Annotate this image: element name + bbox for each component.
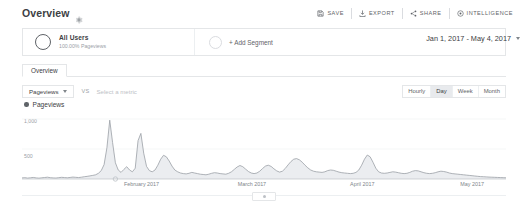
segment-text: All Users 100.00% Pageviews bbox=[59, 34, 106, 49]
chart-drag-handle[interactable] bbox=[252, 192, 276, 201]
analytics-overview-page: Overview SAVE bbox=[0, 0, 528, 210]
x-axis-labels: February 2017 March 2017 April 2017 May … bbox=[22, 181, 506, 191]
add-segment-label: + Add Segment bbox=[229, 39, 273, 46]
chevron-down-icon bbox=[516, 37, 520, 40]
share-button[interactable]: SHARE bbox=[403, 6, 449, 20]
drag-handle-icon bbox=[263, 195, 266, 198]
x-axis-tick-feb: February 2017 bbox=[124, 181, 159, 187]
primary-metric-select[interactable]: Pageviews bbox=[22, 85, 74, 98]
intelligence-icon bbox=[457, 10, 464, 17]
vs-label: VS bbox=[81, 88, 89, 94]
share-label: SHARE bbox=[420, 10, 442, 16]
chevron-down-icon bbox=[63, 90, 67, 93]
save-icon bbox=[317, 10, 324, 17]
save-button[interactable]: SAVE bbox=[310, 6, 351, 20]
date-range-selector[interactable]: Jan 1, 2017 - May 4, 2017 bbox=[426, 34, 520, 43]
date-range-value: Jan 1, 2017 - May 4, 2017 bbox=[426, 34, 511, 43]
secondary-metric-select[interactable]: Select a metric bbox=[97, 88, 137, 95]
tab-overview[interactable]: Overview bbox=[22, 64, 67, 77]
segment-ring-icon bbox=[35, 34, 51, 50]
page-header: Overview SAVE bbox=[0, 0, 528, 26]
page-title: Overview bbox=[22, 7, 70, 19]
chart-svg[interactable] bbox=[22, 101, 506, 193]
segment-chip-all-users[interactable]: All Users 100.00% Pageviews bbox=[23, 29, 195, 55]
export-label: EXPORT bbox=[369, 10, 395, 16]
metric-controls-row: Pageviews VS Select a metric Hourly Day … bbox=[22, 84, 506, 98]
segment-name: All Users bbox=[59, 34, 106, 42]
x-axis-tick-apr: April 2017 bbox=[350, 181, 374, 187]
chart-gridlines bbox=[22, 119, 506, 149]
x-axis-tick-may: May 2017 bbox=[460, 181, 484, 187]
header-toolbar: SAVE EXPORT bbox=[310, 6, 520, 20]
export-icon bbox=[359, 10, 366, 17]
pageviews-chart: Pageviews 1,000 500 February 2017 March … bbox=[22, 101, 506, 193]
granularity-toggle-group: Hourly Day Week Month bbox=[402, 85, 506, 98]
share-icon bbox=[410, 10, 417, 17]
segment-subtitle: 100.00% Pageviews bbox=[59, 44, 106, 50]
granularity-hourly-button[interactable]: Hourly bbox=[403, 86, 431, 97]
granularity-day-button[interactable]: Day bbox=[431, 86, 452, 97]
gear-icon[interactable] bbox=[75, 10, 83, 18]
intelligence-label: INTELLIGENCE bbox=[467, 10, 513, 16]
save-label: SAVE bbox=[327, 10, 344, 16]
tab-strip: Overview bbox=[22, 64, 506, 77]
chart-area-fill bbox=[22, 120, 506, 179]
granularity-week-button[interactable]: Week bbox=[453, 86, 479, 97]
x-axis-tick-mar: March 2017 bbox=[238, 181, 266, 187]
export-button[interactable]: EXPORT bbox=[352, 6, 402, 20]
add-segment-ring-icon bbox=[209, 36, 222, 49]
intelligence-button[interactable]: INTELLIGENCE bbox=[450, 6, 520, 20]
tab-overview-label: Overview bbox=[31, 67, 58, 74]
granularity-month-button[interactable]: Month bbox=[479, 86, 505, 97]
primary-metric-label: Pageviews bbox=[29, 88, 58, 95]
